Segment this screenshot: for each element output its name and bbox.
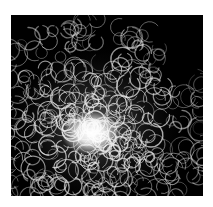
bright-center-glow	[61, 111, 121, 155]
curl-artwork	[11, 15, 203, 196]
abstract-curl-photo	[11, 15, 203, 196]
